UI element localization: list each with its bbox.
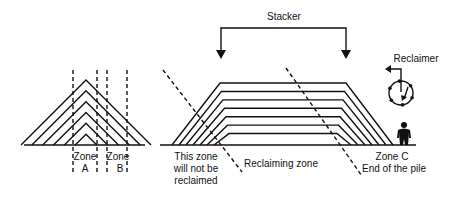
reclaimer-bucket — [410, 96, 414, 100]
stacker-label: Stacker — [267, 11, 302, 22]
zone-a-label-1: Zone — [74, 151, 97, 162]
right-pile-layer — [172, 83, 393, 145]
not-reclaimed-label-2: will not be — [173, 163, 219, 174]
stacker-arrow-icon — [216, 28, 351, 59]
reclaimer-label: Reclaimer — [393, 53, 439, 64]
not-reclaimed-label-1: This zone — [174, 151, 218, 162]
reclaimer-bucket — [401, 103, 405, 107]
reclaimer-bucket — [409, 84, 413, 88]
zone-b-label-2: B — [117, 163, 124, 174]
left-pile-layer — [75, 134, 97, 145]
reclaimer-bucket — [388, 87, 392, 91]
pile-diagram: Zone A Zone B Stacker This zone will not… — [0, 0, 455, 197]
reclaiming-zone-label: Reclaiming zone — [244, 158, 318, 169]
zone-a-label-2: A — [82, 163, 89, 174]
zone-c-label-2: End of the pile — [362, 163, 426, 174]
right-pile-layer — [207, 125, 358, 145]
zone-c-label-1: Zone C — [376, 151, 409, 162]
reclaimer-wheel-icon — [385, 65, 414, 107]
right-pile-layer — [214, 134, 351, 145]
zone-b-label-1: Zone — [107, 151, 130, 162]
right-pile-layer — [200, 117, 365, 145]
not-reclaimed-label-3: reclaimed — [174, 175, 217, 186]
person-icon — [397, 122, 411, 145]
left-pile-layer — [54, 113, 119, 146]
reclaimer-bucket — [398, 79, 402, 83]
reclaimer-bucket — [390, 98, 394, 102]
